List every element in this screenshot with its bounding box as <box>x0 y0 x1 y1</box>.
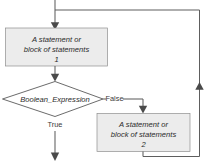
statement-block-1-line3: 1 <box>54 55 58 64</box>
statement-block-1-node: A statement or block of statements 1 <box>6 28 108 66</box>
statement-block-2-line2: block of statements <box>111 130 177 139</box>
false-branch-label: False <box>105 94 123 103</box>
arrow-into-statement-block-2-icon <box>139 106 147 114</box>
statement-block-1-line1: A statement or <box>31 35 82 44</box>
true-branch-label: True <box>48 120 63 129</box>
statement-block-2-line3: 2 <box>140 140 146 149</box>
decision-label: Boolean_Expression <box>20 95 90 104</box>
arrow-loopback-up-icon <box>195 82 203 90</box>
statement-block-2-line1: A statement or <box>118 120 169 129</box>
statement-block-1-line2: block of statements <box>24 45 90 54</box>
block1-to-decision-connector-group <box>51 66 59 82</box>
true-branch-connector-group: True <box>48 120 63 161</box>
arrow-into-decision-icon <box>51 74 59 82</box>
entry-connector-group <box>51 0 59 30</box>
arrow-true-branch-exit-icon <box>51 153 59 162</box>
false-branch-connector-group: False <box>103 94 147 114</box>
statement-block-2-node: A statement or block of statements 2 <box>97 114 190 152</box>
decision-node: Boolean_Expression <box>3 82 104 117</box>
flowchart-diagram: A statement or block of statements 1 Boo… <box>0 0 208 164</box>
flowchart-svg: A statement or block of statements 1 Boo… <box>0 0 208 164</box>
